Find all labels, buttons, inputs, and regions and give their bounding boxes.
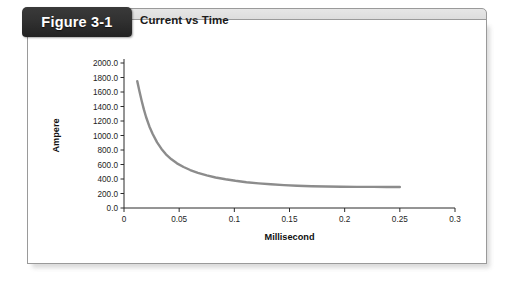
figure-screenshot: Figure 3-1 Current vs Time 0.0200.0400.0…: [0, 0, 508, 281]
x-tick-label: 0.1: [229, 215, 241, 224]
x-tick-label: 0.2: [339, 215, 351, 224]
y-tick-label: 200.0: [98, 190, 119, 199]
y-tick-label: 0.0: [107, 204, 119, 213]
x-tick-label: 0.25: [392, 215, 408, 224]
figure-title: Current vs Time: [140, 14, 229, 26]
data-series-line: [137, 81, 400, 187]
y-tick-label: 1200.0: [93, 117, 118, 126]
y-axis-ticks: [121, 63, 125, 208]
x-axis-ticks: [124, 208, 455, 212]
x-tick-label: 0.15: [282, 215, 298, 224]
x-tick-label: 0.05: [171, 215, 187, 224]
y-tick-label: 1000.0: [93, 132, 118, 141]
y-tick-label: 400.0: [98, 175, 119, 184]
y-tick-label: 800.0: [98, 146, 119, 155]
current-vs-time-chart: 0.0200.0400.0600.0800.01000.01200.01400.…: [27, 36, 487, 264]
y-tick-label: 600.0: [98, 161, 119, 170]
figure-number-tab: Figure 3-1: [22, 7, 132, 37]
x-axis-tick-labels: 00.050.10.150.20.250.3: [122, 215, 461, 224]
y-axis-tick-labels: 0.0200.0400.0600.0800.01000.01200.01400.…: [93, 59, 118, 213]
chart-container: 0.0200.0400.0600.0800.01000.01200.01400.…: [27, 36, 487, 264]
y-tick-label: 1600.0: [93, 88, 118, 97]
x-axis-title: Millisecond: [264, 232, 314, 242]
x-tick-label: 0.3: [449, 215, 461, 224]
y-axis-title: Ampere: [51, 118, 61, 152]
y-tick-label: 1800.0: [93, 74, 118, 83]
x-tick-label: 0: [122, 215, 127, 224]
figure-number-label: Figure 3-1: [22, 7, 132, 37]
y-tick-label: 2000.0: [93, 59, 118, 68]
y-tick-label: 1400.0: [93, 103, 118, 112]
